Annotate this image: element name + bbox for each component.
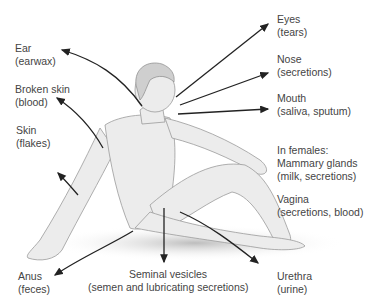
label-mammary-name: Mammary glands: [277, 157, 358, 170]
label-skin: Skin (flakes): [16, 124, 50, 150]
label-in-females: In females:: [277, 144, 358, 157]
label-nose: Nose (secretions): [277, 53, 332, 79]
label-mammary-detail: (milk, secretions): [277, 170, 358, 183]
arrow-eyes: [176, 24, 268, 97]
arrow-ear: [62, 50, 142, 106]
label-mouth: Mouth (saliva, sputum): [277, 92, 351, 118]
label-eyes: Eyes (tears): [277, 13, 307, 39]
label-skin-detail: (flakes): [16, 137, 50, 150]
label-skin-name: Skin: [16, 124, 36, 136]
label-urethra: Urethra (urine): [277, 270, 312, 296]
label-nose-name: Nose: [277, 53, 302, 65]
label-broken-skin-name: Broken skin: [15, 83, 70, 95]
label-seminal-name: Seminal vesicles: [88, 268, 248, 281]
label-ear-name: Ear: [15, 42, 31, 54]
label-eyes-detail: (tears): [277, 26, 307, 39]
arrow-mouth: [178, 109, 268, 114]
label-eyes-name: Eyes: [277, 13, 300, 25]
label-broken-skin-detail: (blood): [15, 96, 70, 109]
label-seminal-vesicles: Seminal vesicles (semen and lubricating …: [88, 268, 248, 294]
label-ear-detail: (earwax): [15, 55, 56, 68]
label-anus-name: Anus: [18, 270, 42, 282]
label-broken-skin: Broken skin (blood): [15, 83, 70, 109]
label-ear: Ear (earwax): [15, 42, 56, 68]
label-anus-detail: (feces): [18, 283, 50, 296]
label-mammary-glands: In females: Mammary glands (milk, secret…: [277, 144, 358, 183]
label-nose-detail: (secretions): [277, 66, 332, 79]
label-urethra-name: Urethra: [277, 270, 312, 282]
arrow-nose: [180, 73, 268, 105]
label-vagina: Vagina (secretions, blood): [277, 193, 363, 219]
label-anus: Anus (feces): [18, 270, 50, 296]
label-urethra-detail: (urine): [277, 283, 312, 296]
label-vagina-detail: (secretions, blood): [277, 206, 363, 219]
label-seminal-detail: (semen and lubricating secretions): [88, 281, 248, 294]
label-mouth-detail: (saliva, sputum): [277, 105, 351, 118]
label-vagina-name: Vagina: [277, 193, 309, 205]
label-mouth-name: Mouth: [277, 92, 306, 104]
